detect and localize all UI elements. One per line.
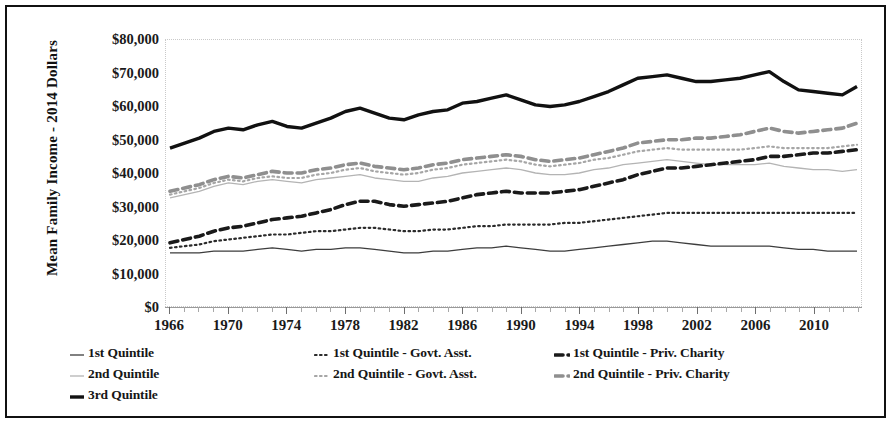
x-axis-tickmark [594,307,595,312]
legend-item[interactable]: 2nd Quintile - Priv. Charity [554,366,730,382]
x-axis-tickmark [374,307,375,312]
legend-label: 3rd Quintile [88,387,158,403]
y-axis-tick-label: $20,000 [67,232,159,249]
x-axis-tickmark [462,307,463,314]
legend-swatch-icon [314,347,330,359]
x-axis-tick-label: 2006 [740,317,770,334]
x-axis-tickmark [433,307,434,312]
x-axis-tick-labels: 1966197019741978198219861990199419982002… [165,317,862,341]
legend-item[interactable]: 2nd Quintile - Govt. Asst. [314,366,477,382]
series-line [170,241,857,253]
y-axis-tick-label: $10,000 [67,265,159,282]
x-axis-tickmark [579,307,580,314]
x-axis-tickmark [286,307,287,314]
x-axis-tick-label: 1994 [564,317,594,334]
plot-area [165,39,862,307]
series-line [170,72,857,148]
x-axis-tickmarks [165,307,862,315]
x-axis-tickmark [638,307,639,314]
legend-item[interactable]: 2nd Quintile [69,366,159,382]
y-axis-tick-label: $30,000 [67,198,159,215]
legend-item[interactable]: 3rd Quintile [69,387,158,403]
x-axis-tickmark [682,307,683,312]
x-axis-tickmark [242,307,243,312]
x-axis-tick-label: 1966 [154,317,184,334]
x-axis-tickmark [726,307,727,312]
x-axis-tickmark [330,307,331,312]
x-axis-tickmark [829,307,830,312]
legend-swatch-icon [314,368,330,380]
x-axis-tickmark [565,307,566,312]
x-axis-tickmark [667,307,668,312]
y-axis-tick-label: $70,000 [67,64,159,81]
x-axis-tickmark [184,307,185,312]
legend-label: 1st Quintile - Priv. Charity [573,345,724,361]
x-axis-tickmark [799,307,800,312]
x-axis-tick-label: 1978 [330,317,360,334]
x-axis-tick-label: 2002 [682,317,712,334]
legend-swatch-icon [69,389,85,401]
x-axis-tickmark [858,307,859,312]
series-line [170,150,857,243]
y-axis-tick-label: $80,000 [67,31,159,48]
x-axis-tickmark [404,307,405,314]
x-axis-tickmark [389,307,390,312]
x-axis-tickmark [213,307,214,312]
x-axis-tickmark [316,307,317,312]
legend-swatch-icon [554,347,570,359]
x-axis-tickmark [360,307,361,312]
x-axis-tickmark [697,307,698,314]
x-axis-tickmark [521,307,522,314]
legend-label: 1st Quintile - Govt. Asst. [333,345,471,361]
x-axis-tickmark [257,307,258,312]
x-axis-tickmark [477,307,478,312]
x-axis-tickmark [785,307,786,312]
x-axis-tickmark [609,307,610,312]
legend-item[interactable]: 1st Quintile [69,345,154,361]
x-axis-tickmark [711,307,712,312]
x-axis-tick-label: 1990 [506,317,536,334]
x-axis-tickmark [535,307,536,312]
y-axis-tick-labels: $80,000$70,000$60,000$50,000$40,000$30,0… [67,33,159,313]
x-axis-tickmark [301,307,302,312]
x-axis-tickmark [623,307,624,312]
legend-swatch-icon [554,368,570,380]
x-axis-tick-label: 1998 [623,317,653,334]
legend-label: 2nd Quintile - Priv. Charity [573,366,730,382]
x-axis-tickmark [843,307,844,312]
legend-swatch-icon [69,347,85,359]
legend-label: 2nd Quintile - Govt. Asst. [333,366,477,382]
x-axis-tickmark [814,307,815,314]
y-axis-tick-label: $60,000 [67,98,159,115]
chart-figure: Mean Family Income - 2014 Dollars $80,00… [5,5,886,418]
chart-legend: 1st Quintile1st Quintile - Govt. Asst.1s… [69,345,869,409]
legend-label: 2nd Quintile [88,366,159,382]
y-axis-title: Mean Family Income - 2014 Dollars [43,23,61,293]
x-axis-tickmark [506,307,507,312]
x-axis-tickmark [228,307,229,314]
x-axis-tickmark [492,307,493,312]
x-axis-tickmark [755,307,756,314]
x-axis-tick-label: 1982 [389,317,419,334]
x-axis-tickmark [448,307,449,312]
x-axis-tickmark [272,307,273,312]
x-axis-tickmark [418,307,419,312]
x-axis-tick-label: 1974 [271,317,301,334]
x-axis-tick-label: 2010 [799,317,829,334]
legend-label: 1st Quintile [88,345,154,361]
series-lines [166,40,861,306]
y-axis-tick-label: $50,000 [67,131,159,148]
legend-item[interactable]: 1st Quintile - Govt. Asst. [314,345,471,361]
x-axis-tickmark [550,307,551,312]
x-axis-tick-label: 1986 [447,317,477,334]
x-axis-tickmark [169,307,170,314]
legend-swatch-icon [69,368,85,380]
x-axis-tickmark [345,307,346,314]
x-axis-tickmark [653,307,654,312]
x-axis-tickmark [741,307,742,312]
y-axis-tick-label: $40,000 [67,165,159,182]
legend-item[interactable]: 1st Quintile - Priv. Charity [554,345,724,361]
x-axis-tickmark [198,307,199,312]
x-axis-tickmark [770,307,771,312]
series-line [170,123,857,191]
